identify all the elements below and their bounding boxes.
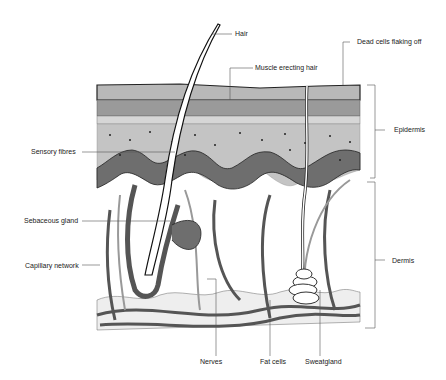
sebaceous-gland-shape <box>172 220 201 249</box>
skin-diagram: Hair Muscle erecting hair Dead cells fla… <box>0 0 446 380</box>
label-sweatgland: Sweatgland <box>305 357 342 366</box>
label-epidermis: Epidermis <box>394 125 425 134</box>
skin-illustration <box>0 0 446 380</box>
label-sebaceous-gland: Sebaceous gland <box>24 216 78 225</box>
sweat-gland-coil <box>289 269 319 304</box>
label-dermis: Dermis <box>392 256 414 265</box>
label-capillary-network: Capillary network <box>25 261 79 270</box>
cell-row <box>97 116 360 124</box>
label-dead-cells: Dead cells flaking off <box>357 37 421 46</box>
label-nerves: Nerves <box>200 357 222 366</box>
label-sensory-fibres: Sensory fibres <box>31 147 76 156</box>
stratum-corneum <box>97 84 360 100</box>
label-hair: Hair <box>235 29 248 38</box>
label-fat-cells: Fat cells <box>260 357 286 366</box>
stratum-granulosum <box>97 100 360 116</box>
label-muscle-erecting-hair: Muscle erecting hair <box>255 63 318 72</box>
